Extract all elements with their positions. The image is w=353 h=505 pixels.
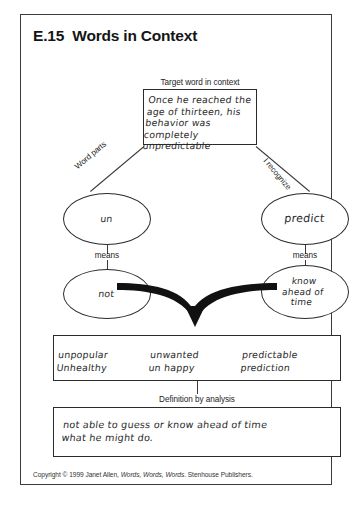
copyright-book-title: Words, Words, Words	[121, 471, 185, 478]
copyright-notice: Copyright © 1999 Janet Allen, Words, Wor…	[33, 471, 253, 478]
oval-meaning-left-text: not	[98, 288, 116, 300]
converging-arrow-icon	[117, 279, 277, 327]
definition-label: Definition by analysis	[53, 395, 341, 404]
page-title: E.15 Words in Context	[33, 27, 197, 45]
oval-word-part-left[interactable]: un	[63, 193, 151, 245]
other-words-column-2: unwanted un happy	[151, 348, 200, 374]
definition-box[interactable]: not able to guess or know ahead of time …	[53, 407, 341, 457]
word-parts-label: Word parts	[73, 140, 108, 171]
worksheet-frame: E.15 Words in Context Target word in con…	[20, 14, 332, 485]
oval-word-part-left-text: un	[99, 213, 113, 225]
means-label-right: means	[280, 251, 330, 260]
stem-left-lower	[107, 260, 108, 269]
definition-text: not able to guess or know ahead of time …	[61, 418, 336, 444]
copyright-suffix: . Stenhouse Publishers.	[184, 471, 253, 478]
means-label-left: means	[82, 251, 132, 260]
copyright-prefix: Copyright © 1999 Janet Allen,	[33, 471, 121, 478]
oval-meaning-right-text: know ahead of time	[280, 276, 325, 308]
other-words-column-1-text: unpopular Unhealthy	[56, 348, 109, 374]
other-words-column-1: unpopular Unhealthy	[59, 348, 109, 374]
other-words-column-2-text: unwanted un happy	[148, 348, 200, 374]
target-word-context-box[interactable]: Once he reached the age of thirteen, his…	[143, 89, 257, 145]
other-words-column-3-text: predictable prediction	[240, 348, 299, 374]
oval-word-part-right[interactable]: predict	[261, 193, 349, 245]
target-word-context-label: Target word in context	[125, 78, 275, 87]
oval-word-part-right-text: predict	[283, 213, 325, 225]
stem-definition	[197, 381, 198, 394]
target-word-context-text: Once he reached the age of thirteen, his…	[142, 94, 261, 152]
other-words-column-3: predictable prediction	[243, 348, 299, 374]
